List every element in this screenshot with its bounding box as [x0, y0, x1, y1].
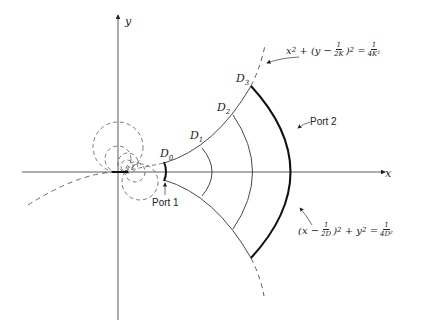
dashed-circles	[93, 122, 158, 200]
port1-arc	[164, 162, 166, 181]
diagram-canvas: y x D0 D1 D2 D3 Port 1 Port 2 x2 + (y − …	[0, 0, 425, 331]
lower-circle-equation: (x − 12D )2 + y2 = 14D²	[298, 222, 395, 238]
upper-boundary	[164, 86, 251, 163]
y-axis-label: y	[125, 16, 131, 27]
label-D3: D3	[236, 73, 249, 87]
lower-boundary	[164, 180, 251, 258]
x-axis-label: x	[385, 168, 391, 179]
label-D2: D2	[217, 102, 230, 116]
dashed-extension-left	[28, 172, 118, 205]
upper-circle-equation: x2 + (y − 12K )2 = 14K²	[286, 42, 382, 58]
label-D0: D0	[160, 148, 173, 162]
port1-label: Port 1	[152, 198, 179, 208]
label-D1: D1	[190, 130, 203, 144]
port2-label: Port 2	[310, 117, 337, 127]
